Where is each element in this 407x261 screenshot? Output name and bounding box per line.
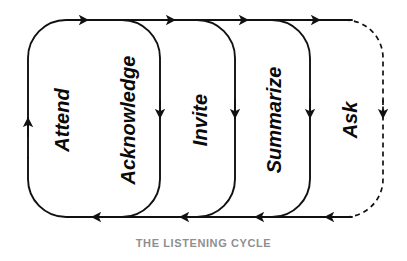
acknowledge-lane-outline xyxy=(122,20,160,217)
attend-lane-outline xyxy=(28,20,352,158)
solid-rail-group xyxy=(28,20,352,217)
listening-cycle-diagram: Attend Acknowledge Invite Summarize Ask … xyxy=(0,0,407,261)
diagram-caption: THE LISTENING CYCLE xyxy=(0,237,407,249)
ask-lane-outline xyxy=(345,20,383,217)
cycle-flow-graphic xyxy=(0,0,407,261)
lane-separator-arrowheads xyxy=(160,100,310,118)
attend-lane-outline-bottom xyxy=(28,158,352,217)
invite-lane-outline xyxy=(197,20,235,217)
summarize-lane-outline xyxy=(272,20,310,217)
